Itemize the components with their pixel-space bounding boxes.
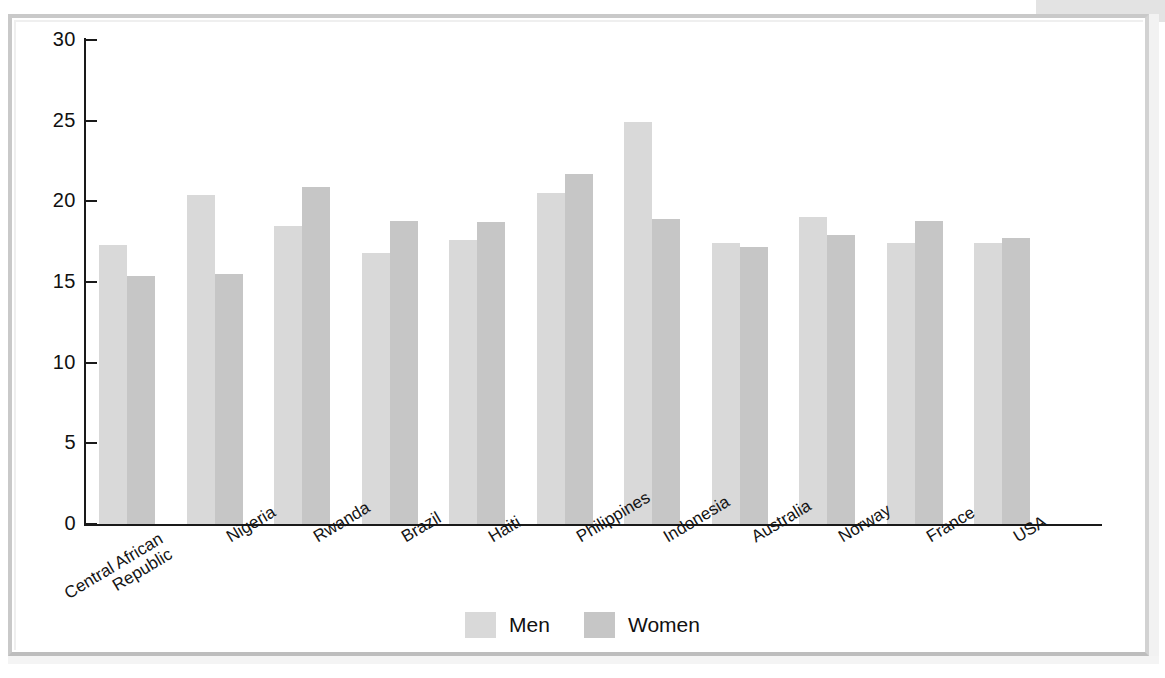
bar-men-central-african-republic bbox=[99, 245, 127, 524]
bar-women-australia bbox=[740, 247, 768, 524]
legend-label-women: Women bbox=[628, 613, 700, 637]
legend-item-men[interactable]: Men bbox=[465, 612, 550, 638]
bar-men-usa bbox=[974, 243, 1002, 524]
y-axis-tick-label: 20 bbox=[53, 189, 76, 212]
bar-women-indonesia bbox=[652, 219, 680, 524]
bar-women-usa bbox=[1002, 238, 1030, 524]
legend-item-women[interactable]: Women bbox=[584, 612, 700, 638]
x-axis-label-central-african-republic: Central AfricanRepublic bbox=[61, 530, 175, 619]
legend-label-men: Men bbox=[509, 613, 550, 637]
bar-women-rwanda bbox=[302, 187, 330, 524]
chart-legend: MenWomen bbox=[0, 612, 1165, 638]
bar-men-philippines bbox=[537, 193, 565, 524]
bar-women-central-african-republic bbox=[127, 276, 155, 524]
scanned-page: 051015202530 Central AfricanRepublicNige… bbox=[0, 0, 1165, 678]
bar-women-nigeria bbox=[215, 274, 243, 524]
y-axis-tick-label: 5 bbox=[64, 431, 76, 454]
bar-men-nigeria bbox=[187, 195, 215, 524]
bar-men-brazil bbox=[362, 253, 390, 524]
y-axis-tick-label: 30 bbox=[53, 28, 76, 51]
bar-women-norway bbox=[827, 235, 855, 524]
bar-men-norway bbox=[799, 217, 827, 524]
y-axis-tick-label: 15 bbox=[53, 270, 76, 293]
plot-area bbox=[84, 40, 1104, 524]
bar-men-rwanda bbox=[274, 226, 302, 524]
y-axis-tick-label: 0 bbox=[64, 512, 76, 535]
bar-men-indonesia bbox=[624, 122, 652, 524]
bar-women-haiti bbox=[477, 222, 505, 524]
legend-swatch-women bbox=[584, 612, 615, 638]
bar-men-france bbox=[887, 243, 915, 524]
y-axis-tick-label: 25 bbox=[53, 109, 76, 132]
y-axis-tick-label: 10 bbox=[53, 351, 76, 374]
bar-women-france bbox=[915, 221, 943, 524]
bar-women-philippines bbox=[565, 174, 593, 524]
legend-swatch-men bbox=[465, 612, 496, 638]
bar-men-haiti bbox=[449, 240, 477, 524]
bar-women-brazil bbox=[390, 221, 418, 524]
bar-men-australia bbox=[712, 243, 740, 524]
grouped-bar-chart: 051015202530 Central AfricanRepublicNige… bbox=[0, 0, 1165, 678]
